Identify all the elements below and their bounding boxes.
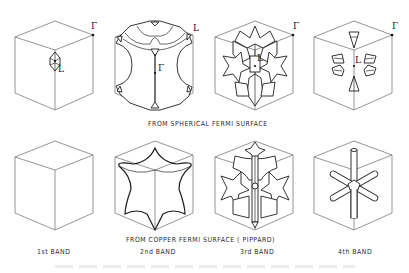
gamma-label-panel-3: Γ <box>293 22 299 31</box>
caption-copper: FROM COPPER FERMI SURFACE ( PIPPARD) <box>126 236 275 244</box>
panel-spherical-band-2 <box>115 21 193 110</box>
band-label-1: 1st BAND <box>37 248 71 256</box>
panel-copper-band-2 <box>115 141 193 230</box>
l-label-panel-4: L <box>355 56 361 65</box>
panel-spherical-band-3 <box>215 21 294 110</box>
panel-copper-band-3 <box>215 141 293 230</box>
gamma-label-panel-4: Γ <box>392 22 398 31</box>
fermi-surface-figure <box>0 0 409 273</box>
band-label-3: 3rd BAND <box>240 248 274 256</box>
panel-copper-band-4 <box>314 141 392 230</box>
l-label-panel-1: L <box>58 65 64 74</box>
band-label-2: 2nd BAND <box>140 248 176 256</box>
l-label-panel-3: L <box>257 54 263 63</box>
panel-spherical-band-4 <box>314 21 393 110</box>
gamma-point-dot <box>92 34 95 37</box>
gamma-label-panel-2: Γ <box>158 64 164 73</box>
l-label-panel-2: L <box>193 24 199 33</box>
band-label-4: 4th BAND <box>338 248 372 256</box>
panel-spherical-band-1 <box>15 21 94 110</box>
caption-spherical: FROM SPHERICAL FERMI SURFACE <box>148 120 268 128</box>
panel-copper-band-1 <box>15 141 93 230</box>
gamma-label-panel-1: Γ <box>91 22 97 31</box>
faded-caption <box>55 265 355 268</box>
